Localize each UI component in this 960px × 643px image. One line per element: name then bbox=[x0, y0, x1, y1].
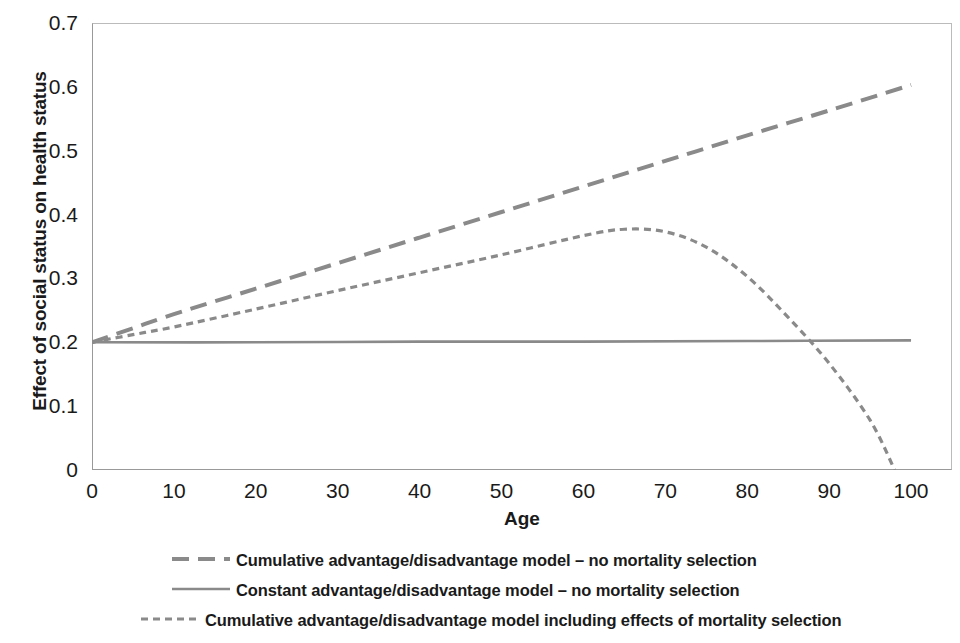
series-line-0 bbox=[92, 85, 911, 342]
series-line-1 bbox=[92, 340, 911, 342]
x-tick-label: 80 bbox=[717, 480, 777, 501]
x-tick-label: 10 bbox=[144, 480, 204, 501]
x-tick-label: 60 bbox=[553, 480, 613, 501]
x-tick-label: 90 bbox=[799, 480, 859, 501]
series-line-2 bbox=[92, 229, 895, 470]
y-tick-label: 0 bbox=[6, 459, 78, 480]
x-tick-label: 0 bbox=[62, 480, 122, 501]
x-tick-label: 30 bbox=[308, 480, 368, 501]
x-tick-label: 50 bbox=[472, 480, 532, 501]
legend-line-sample bbox=[172, 582, 230, 598]
legend-line-sample bbox=[141, 612, 199, 628]
x-tick-label: 70 bbox=[635, 480, 695, 501]
y-tick-label: 0.2 bbox=[6, 331, 78, 352]
legend-item[interactable]: Constant advantage/disadvantage model – … bbox=[0, 575, 960, 605]
chart-figure: Effect of social status on health status… bbox=[0, 0, 960, 643]
legend-item[interactable]: Cumulative advantage/disadvantage model … bbox=[0, 545, 960, 575]
legend-label: Constant advantage/disadvantage model – … bbox=[236, 581, 740, 600]
x-tick-label: 40 bbox=[390, 480, 450, 501]
x-tick-label: 20 bbox=[226, 480, 286, 501]
x-tick-label: 100 bbox=[881, 480, 941, 501]
y-tick-label: 0.5 bbox=[6, 140, 78, 161]
y-tick-label: 0.7 bbox=[6, 12, 78, 33]
y-tick-label: 0.6 bbox=[6, 76, 78, 97]
chart-legend: Cumulative advantage/disadvantage model … bbox=[0, 545, 960, 635]
y-tick-label: 0.4 bbox=[6, 204, 78, 225]
legend-label: Cumulative advantage/disadvantage model … bbox=[236, 551, 757, 570]
legend-line-sample bbox=[172, 552, 230, 568]
y-tick-label: 0.3 bbox=[6, 267, 78, 288]
y-tick-label: 0.1 bbox=[6, 395, 78, 416]
series-plot bbox=[92, 23, 952, 470]
legend-label: Cumulative advantage/disadvantage model … bbox=[205, 611, 842, 630]
legend-item[interactable]: Cumulative advantage/disadvantage model … bbox=[0, 605, 960, 635]
x-axis-title: Age bbox=[92, 508, 952, 530]
